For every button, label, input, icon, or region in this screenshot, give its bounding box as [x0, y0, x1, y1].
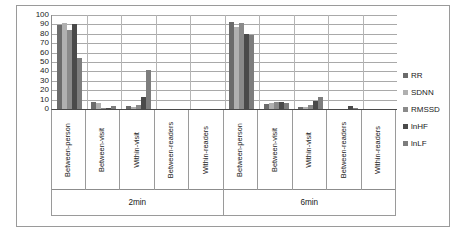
legend-label: RR: [411, 71, 423, 80]
chart-legend: RRSDNNRMSSDlnHFlnLF: [403, 68, 449, 153]
category-cell: Between-readers: [155, 110, 190, 190]
category-separator: [225, 15, 226, 109]
y-axis-tick-50: 50: [40, 58, 49, 66]
y-axis-tick-20: 20: [40, 86, 49, 94]
category-separator: [121, 15, 122, 109]
group-label-band: 2min6min: [51, 190, 396, 216]
legend-swatch-icon: [403, 124, 408, 129]
legend-swatch-icon: [403, 90, 408, 95]
category-separator: [294, 15, 295, 109]
group-cell-6min: 6min: [224, 190, 397, 216]
category-separator: [259, 15, 260, 109]
y-axis-tick-70: 70: [40, 39, 49, 47]
chart-figure: 1009080706050403020100 Between-personBet…: [16, 5, 450, 227]
legend-label: lnLF: [411, 139, 427, 148]
category-label-between-visit: Between-visit: [98, 128, 106, 172]
legend-swatch-icon: [403, 107, 408, 112]
category-label-between-visit: Between-visit: [271, 128, 279, 172]
y-axis-tick-100: 100: [36, 11, 49, 19]
category-cell: Within-readers: [189, 110, 224, 190]
category-label-within-visit: Within-visit: [133, 132, 141, 168]
group-cell-2min: 2min: [51, 190, 224, 216]
category-label-between-readers: Between-readers: [167, 122, 175, 178]
legend-item-lnhf[interactable]: lnHF: [403, 119, 449, 134]
legend-swatch-icon: [403, 73, 408, 78]
y-axis-tick-60: 60: [40, 49, 49, 57]
y-axis-tick-30: 30: [40, 77, 49, 85]
y-axis-tick-90: 90: [40, 20, 49, 28]
legend-label: RMSSD: [411, 105, 440, 114]
legend-item-sdnn[interactable]: SDNN: [403, 85, 449, 100]
category-cell: Between-visit: [258, 110, 293, 190]
category-separator: [156, 15, 157, 109]
category-label-between-readers: Between-readers: [340, 122, 348, 178]
group-label-2min: 2min: [128, 198, 146, 207]
legend-item-rr[interactable]: RR: [403, 68, 449, 83]
category-cell: Between-visit: [86, 110, 121, 190]
bar: [353, 108, 358, 109]
bar: [111, 106, 116, 109]
bar: [146, 70, 151, 109]
y-axis-tick-0: 0: [45, 105, 49, 113]
category-separator: [87, 15, 88, 109]
category-separator: [363, 15, 364, 109]
legend-item-lnlf[interactable]: lnLF: [403, 136, 449, 151]
bar: [318, 97, 323, 109]
category-cell: Within-readers: [362, 110, 397, 190]
plot-area: [51, 15, 397, 110]
legend-item-rmssd[interactable]: RMSSD: [403, 102, 449, 117]
category-label-within-readers: Within-readers: [374, 126, 382, 174]
group-label-6min: 6min: [300, 198, 318, 207]
legend-swatch-icon: [403, 141, 408, 146]
category-label-within-visit: Within-visit: [305, 132, 313, 168]
category-cell: Within-visit: [293, 110, 328, 190]
legend-label: lnHF: [411, 122, 428, 131]
bar: [284, 103, 289, 109]
bar: [77, 58, 82, 109]
category-cell: Between-person: [224, 110, 259, 190]
bar: [249, 35, 254, 109]
category-label-within-readers: Within-readers: [202, 126, 210, 174]
category-cell: Between-person: [51, 110, 86, 190]
chart-area: 1009080706050403020100 Between-personBet…: [17, 6, 451, 228]
category-label-between-person: Between-person: [64, 123, 72, 177]
category-separator: [328, 15, 329, 109]
category-cell: Within-visit: [120, 110, 155, 190]
category-cell: Between-readers: [327, 110, 362, 190]
category-label-band: Between-personBetween-visitWithin-visitB…: [51, 110, 396, 190]
y-axis-tick-labels: 1009080706050403020100: [23, 15, 49, 109]
category-label-between-person: Between-person: [236, 123, 244, 177]
category-separator: [190, 15, 191, 109]
y-axis-tick-10: 10: [40, 96, 49, 104]
y-axis-tick-80: 80: [40, 30, 49, 38]
legend-label: SDNN: [411, 88, 434, 97]
y-axis-tick-40: 40: [40, 67, 49, 75]
